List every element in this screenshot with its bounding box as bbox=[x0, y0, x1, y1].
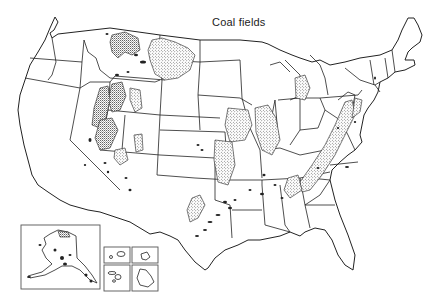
us-coal-fields-map bbox=[0, 0, 433, 307]
hawaii-insets bbox=[104, 247, 158, 291]
alaska-inset bbox=[21, 225, 100, 289]
